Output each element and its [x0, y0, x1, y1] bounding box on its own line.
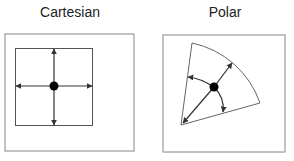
cartesian-panel [5, 34, 134, 151]
polar-point [210, 83, 219, 92]
cartesian-point [50, 82, 59, 91]
diagram [0, 0, 294, 161]
polar-panel [163, 35, 285, 152]
